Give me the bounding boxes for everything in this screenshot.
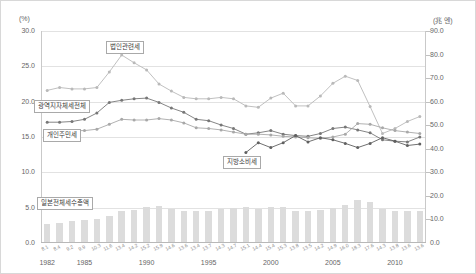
data-point xyxy=(195,126,198,129)
data-point xyxy=(394,140,397,143)
bar-value-label: 17.6 xyxy=(363,242,374,252)
callout-japan-total-tax-revenue: 일본전체세수총액 xyxy=(37,197,93,210)
data-point xyxy=(331,138,334,141)
data-point xyxy=(220,96,223,99)
data-point xyxy=(232,127,235,130)
right-tick-mark xyxy=(426,78,431,79)
bar-value-label: 14.9 xyxy=(326,242,337,252)
right-tick-label: 80.0 xyxy=(430,51,464,59)
left-axis-line xyxy=(41,31,42,243)
data-point xyxy=(381,126,384,129)
left-tick-label: 25.0 xyxy=(5,62,35,70)
bar-value-label: 15.3 xyxy=(276,242,287,252)
right-tick-mark xyxy=(426,102,431,103)
data-point xyxy=(331,136,334,139)
data-point xyxy=(257,141,260,144)
data-point xyxy=(307,136,310,139)
bar-value-label: 14.3 xyxy=(214,242,225,252)
data-point xyxy=(418,136,421,139)
bar-value-label: 14.7 xyxy=(226,242,237,252)
right-tick-mark xyxy=(426,31,431,32)
callout-individual-resident-tax: 개인주민세 xyxy=(43,129,81,142)
right-axis-unit: (兆 엔) xyxy=(433,15,453,25)
chart-frame: (%) (兆 엔) 30.025.020.015.010.05.00.0 90.… xyxy=(0,0,476,274)
bar-value-label: 14.4 xyxy=(251,242,262,252)
bar-value-label: 13.7 xyxy=(202,242,213,252)
data-point xyxy=(220,124,223,127)
line-법인관련세 xyxy=(47,55,420,134)
bar-value-label: 15.4 xyxy=(264,242,275,252)
data-point xyxy=(108,101,111,104)
left-tick-label: 5.0 xyxy=(5,204,35,212)
data-point xyxy=(356,128,359,131)
bar-value-label: 15.9 xyxy=(152,242,163,252)
right-tick-mark xyxy=(426,149,431,150)
data-point xyxy=(195,118,198,121)
data-point xyxy=(58,121,61,124)
data-point xyxy=(282,92,285,95)
data-point xyxy=(158,101,161,104)
right-axis-line xyxy=(425,31,426,243)
data-point xyxy=(95,86,98,89)
data-point xyxy=(269,129,272,132)
data-point xyxy=(83,129,86,132)
data-point xyxy=(207,119,210,122)
bar-value-label: 16.0 xyxy=(338,242,349,252)
data-point xyxy=(207,97,210,100)
data-point xyxy=(244,104,247,107)
data-point xyxy=(170,107,173,110)
bar-value-label: 8.4 xyxy=(53,243,62,252)
bar-value-label: 13.6 xyxy=(177,242,188,252)
data-point xyxy=(71,87,74,90)
bar-value-label: 13.6 xyxy=(400,242,411,252)
data-point xyxy=(331,127,334,130)
bar-value-label: 13.8 xyxy=(289,242,300,252)
data-point xyxy=(95,128,98,131)
data-point xyxy=(120,118,123,121)
data-point xyxy=(182,111,185,114)
data-point xyxy=(369,105,372,108)
data-point xyxy=(369,123,372,126)
data-point xyxy=(145,119,148,122)
data-point xyxy=(356,122,359,125)
data-point xyxy=(58,86,61,89)
callout-local-consumption-tax: 지방소비세 xyxy=(223,156,261,169)
right-tick-label: 90.0 xyxy=(430,27,464,35)
data-point xyxy=(158,117,161,120)
data-point xyxy=(195,97,198,100)
right-tick-label: 20.0 xyxy=(430,192,464,200)
x-tick-label: 1982 xyxy=(39,259,55,266)
data-point xyxy=(418,132,421,135)
data-point xyxy=(344,133,347,136)
right-tick-mark xyxy=(426,125,431,126)
bar-value-label: 14.2 xyxy=(313,242,324,252)
data-point xyxy=(244,151,247,154)
data-point xyxy=(344,126,347,129)
right-tick-label: 10.0 xyxy=(430,215,464,223)
data-point xyxy=(46,121,49,124)
data-point xyxy=(158,83,161,86)
data-point xyxy=(220,128,223,131)
data-point xyxy=(406,140,409,143)
data-point xyxy=(307,104,310,107)
data-point xyxy=(71,120,74,123)
baseline-axis xyxy=(41,242,426,243)
data-point xyxy=(418,143,421,146)
data-point xyxy=(108,123,111,126)
data-point xyxy=(282,135,285,138)
data-point xyxy=(108,71,111,74)
data-point xyxy=(232,131,235,134)
right-tick-mark xyxy=(426,196,431,197)
data-point xyxy=(344,75,347,78)
left-tick-label: 20.0 xyxy=(5,98,35,106)
data-point xyxy=(294,104,297,107)
right-tick-label: 50.0 xyxy=(430,121,464,129)
bar-value-label: 10.3 xyxy=(90,242,101,252)
data-point xyxy=(307,140,310,143)
data-point xyxy=(182,121,185,124)
data-point xyxy=(133,97,136,100)
bar-value-label: 15.2 xyxy=(140,242,151,252)
data-point xyxy=(406,131,409,134)
data-point xyxy=(369,142,372,145)
left-tick-label: 0.0 xyxy=(5,239,35,247)
